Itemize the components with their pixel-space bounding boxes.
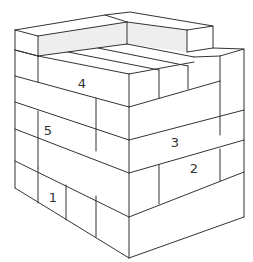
brick-label-1: 1: [49, 191, 57, 204]
brick-label-5: 5: [44, 124, 52, 137]
right-face: [129, 49, 244, 258]
brick-label-2: 2: [190, 162, 198, 175]
left-face: [15, 30, 129, 258]
brick-pillar-drawing: [0, 0, 253, 262]
brick-pillar-diagram: 1 2 3 4 5: [0, 0, 253, 262]
brick-label-3: 3: [171, 136, 179, 149]
brick-label-4: 4: [78, 77, 86, 90]
